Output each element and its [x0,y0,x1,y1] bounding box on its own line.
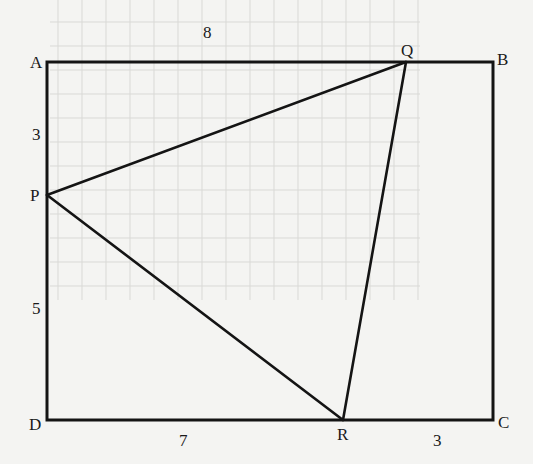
vertex-label-c: C [498,414,509,431]
length-label-pd: 5 [32,300,41,317]
vertex-label-b: B [497,51,508,68]
vertex-label-p: P [30,187,39,204]
rectangle-abcd [47,62,493,420]
length-label-ap: 3 [32,126,41,143]
vertex-label-a: A [30,54,42,71]
length-label-rc: 3 [433,432,442,449]
geometry-diagram [0,0,533,464]
segment-qr [343,62,406,420]
segment-rp [47,195,343,420]
vertex-label-r: R [337,426,348,443]
vertex-label-d: D [29,416,41,433]
background-grid [50,0,420,300]
length-label-dr: 7 [179,432,188,449]
length-label-aq: 8 [203,24,212,41]
vertex-label-q: Q [401,42,413,59]
